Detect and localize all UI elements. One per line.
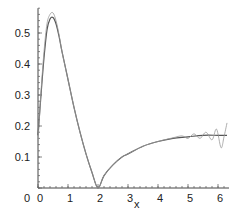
y-tick-label: 0.5 [15, 27, 30, 39]
y-tick-label: 0 [24, 192, 30, 204]
axes: 012345600.10.20.30.40.5 [15, 8, 229, 204]
x-tick-label: 4 [157, 192, 163, 204]
chart: 012345600.10.20.30.40.5 x [0, 0, 240, 218]
y-tick-label: 0.4 [15, 58, 30, 70]
series-line-oscillating [38, 12, 227, 188]
y-tick-label: 0.1 [15, 151, 30, 163]
x-axis-label: x [134, 198, 140, 210]
y-tick-label: 0.2 [15, 120, 30, 132]
x-tick-label: 5 [187, 192, 193, 204]
x-tick-label: 6 [217, 192, 223, 204]
x-tick-label: 3 [127, 192, 133, 204]
x-tick-label: 2 [97, 192, 103, 204]
x-tick-label: 0 [37, 192, 43, 204]
series-line-smooth [38, 17, 227, 188]
y-tick-label: 0.3 [15, 89, 30, 101]
plot-area [38, 12, 227, 188]
x-tick-label: 1 [67, 192, 73, 204]
